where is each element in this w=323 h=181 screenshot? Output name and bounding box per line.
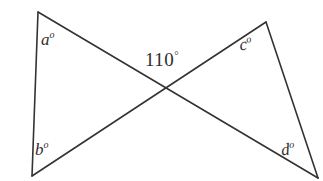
angle-label-b-variable: b	[35, 140, 44, 159]
angle-label-known-measure: 110°	[145, 50, 179, 69]
angle-label-d: do	[280, 139, 296, 158]
geometry-figure: ao bo co do 110°	[0, 0, 323, 181]
degree-symbol-icon: °	[174, 49, 179, 61]
angle-label-a-variable: a	[41, 30, 50, 49]
degree-symbol-icon: o	[50, 29, 55, 40]
angle-label-c: co	[238, 34, 253, 53]
angle-measure-value: 110	[145, 49, 174, 70]
angle-label-b: bo	[35, 140, 49, 158]
degree-symbol-icon: o	[44, 139, 49, 150]
angle-label-a: ao	[41, 30, 55, 48]
segment-diagonal-top-left-to-bottom-right	[38, 12, 318, 178]
segment-diagonal-bottom-left-to-top-right	[32, 22, 266, 176]
